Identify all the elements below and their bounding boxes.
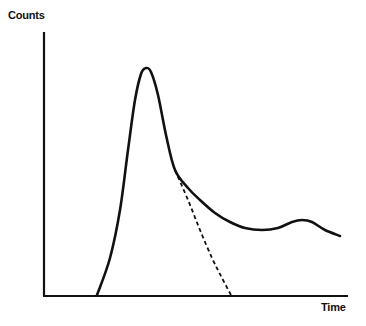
- measured-curve: [97, 68, 340, 295]
- chart-plot: [0, 0, 366, 326]
- x-axis-label: Time: [321, 301, 346, 313]
- extrapolated-decay-curve: [175, 170, 231, 295]
- y-axis-label: Counts: [8, 9, 45, 21]
- chart: Counts Time: [0, 0, 366, 326]
